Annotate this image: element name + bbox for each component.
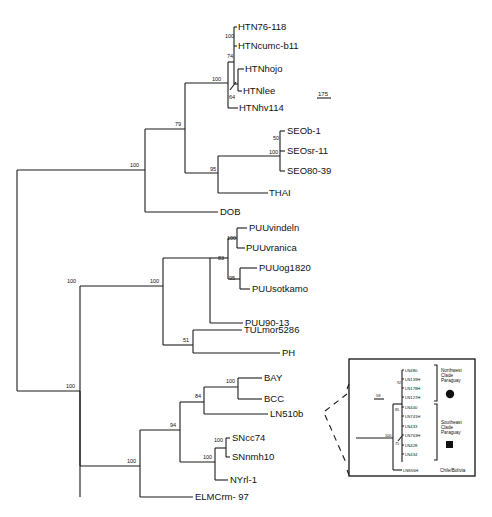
bootstrap-seo-100: 100	[269, 149, 278, 155]
leaf-dob: DOB	[220, 206, 241, 217]
root-branches	[17, 170, 145, 391]
inset-leaf: LN434	[405, 452, 418, 457]
bootstrap-seo-50: 50	[273, 135, 279, 141]
bootstrap-htn-74: 74	[227, 53, 233, 59]
inset-bootstrap-85: 85	[395, 408, 399, 412]
leaf-htnlee: HTNlee	[243, 85, 275, 96]
inset-bootstrap-92: 92	[397, 381, 401, 385]
leaf-htnhv114: HTNhv114	[239, 102, 284, 113]
leaf-seosr-11: SEOsr-11	[287, 145, 328, 156]
leaf-puuvindeln: PUUvindeln	[249, 222, 299, 233]
inset-callout-lines	[325, 384, 349, 475]
bootstrap-bay-ln: 84	[195, 393, 201, 399]
bootstrap-upper-root: 100	[130, 162, 139, 168]
leaf-nyrl-1: NYrl-1	[230, 474, 257, 485]
leaf-puusotkamo: PUUsotkamo	[252, 283, 308, 294]
leaf-thai: THAI	[269, 187, 291, 198]
leaf-puuvranica: PUUvranica	[246, 242, 297, 253]
inset-bootstrap-75: 75	[395, 442, 399, 446]
bootstrap-puu-tul: 100	[67, 278, 76, 284]
bootstrap-bay-bcc: 100	[226, 378, 235, 384]
leaf-htnhojo: HTNhojo	[245, 63, 283, 74]
bootstrap-puu-83: 83	[218, 255, 224, 261]
bootstrap-puu-root: 100	[150, 278, 159, 284]
chile-bolivia-label: Chile/Bolivia	[440, 468, 466, 473]
leaf-htn76-118: HTN76-118	[238, 21, 286, 32]
bootstrap-seo-thai: 95	[210, 166, 216, 172]
leaf-ph: PH	[282, 347, 295, 358]
inset-leaf: LN433	[405, 424, 418, 429]
bootstrap-tul-ph: 51	[183, 337, 189, 343]
leaf-elmcrm-97: ELMCrm- 97	[195, 491, 249, 502]
bootstrap-htn-root: 100	[212, 76, 221, 82]
bootstrap-htn-pair: 100	[225, 33, 234, 39]
inset-leaf: LN440	[405, 405, 418, 410]
inset-leaf: LN139H	[405, 377, 420, 382]
phylogenetic-tree: 100 100 HTN76-118 HTNcumc-b11 HTNhojo H	[0, 0, 492, 517]
inset-leaf: LN480	[405, 368, 418, 373]
leaf-sncc74: SNcc74	[232, 432, 265, 443]
southeast-label: Paraguay	[441, 430, 461, 435]
bootstrap-htn-64: 64	[229, 94, 235, 100]
northwest-circle-symbol	[446, 390, 454, 398]
leaf-bay: BAY	[264, 372, 283, 383]
bootstrap-sn-ny: 100	[203, 454, 212, 460]
inset-box: 58 LN480 LN139H LN178H LN127H LN440 LN74…	[349, 359, 475, 476]
leaf-snnmh10: SNnmh10	[232, 451, 274, 462]
bootstrap-sn-pair: 100	[214, 437, 223, 443]
inset-scale-bar-label: 58	[376, 393, 381, 398]
leaf-seo80-39: SEO80-39	[287, 165, 331, 176]
inset-bootstrap-100: 100	[385, 434, 391, 438]
leaf-ln510b: LN510b	[270, 408, 303, 419]
inset-leaf: LN741H	[405, 414, 420, 419]
inset-leaf: LN127H	[405, 395, 420, 400]
inset-leaf: LN428	[405, 443, 418, 448]
leaf-htncumc-b11: HTNcumc-b11	[238, 40, 299, 51]
bootstrap-lower-root: 100	[66, 383, 75, 389]
bootstrap-puu-vind: 100	[227, 235, 236, 241]
leaf-seob-1: SEOb-1	[287, 125, 321, 136]
inset-leaf: LN763H	[405, 433, 420, 438]
leaf-tulmor5286: TULmor5286	[244, 324, 299, 335]
upper-clade-branches	[145, 27, 285, 212]
inset-leaf: LN178H	[405, 386, 420, 391]
northwest-label: Paraguay	[441, 378, 461, 383]
leaf-puuog1820: PUUog1820	[259, 262, 311, 273]
leaf-bcc: BCC	[264, 393, 284, 404]
inset-leaf: LN855H	[403, 468, 418, 473]
southeast-square-symbol	[446, 441, 453, 448]
bootstrap-puu-95: 95	[229, 275, 235, 281]
bootstrap-sn-94: 94	[170, 422, 176, 428]
bootstrap-htn-seo: 79	[175, 121, 181, 127]
bootstrap-sn-elmc: 100	[127, 458, 136, 464]
scale-bar-label: 175	[318, 91, 329, 97]
